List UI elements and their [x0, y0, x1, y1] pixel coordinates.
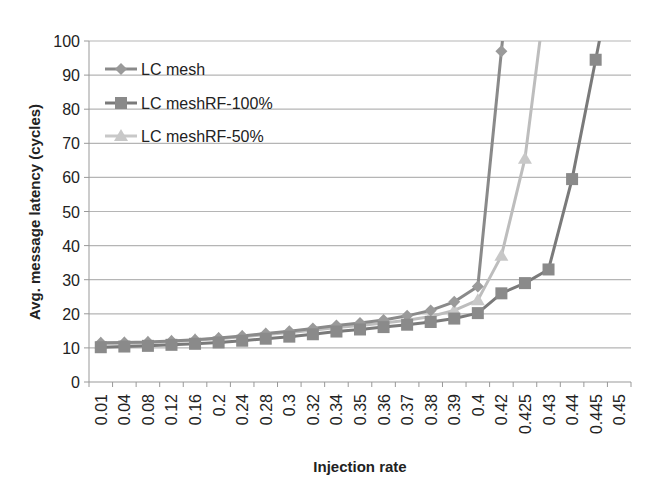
legend: LC mesh LC meshRF-100% LC meshRF-50%: [105, 61, 273, 145]
diamond-marker-icon: [115, 63, 127, 75]
y-tick-label: 20: [62, 306, 80, 323]
y-tick-label: 10: [62, 340, 80, 357]
triangle-marker: [494, 249, 508, 261]
legend-label: LC mesh: [141, 61, 205, 78]
x-tick-label: 0.08: [140, 394, 157, 425]
x-tick-label: 0.34: [328, 394, 345, 425]
x-tick-label: 0.425: [517, 394, 534, 434]
x-tick-label: 0.38: [423, 394, 440, 425]
square-marker: [283, 331, 295, 343]
square-marker: [142, 340, 154, 352]
square-marker: [165, 339, 177, 351]
x-tick-label: 0.35: [352, 394, 369, 425]
square-marker: [260, 333, 272, 345]
y-tick-label: 100: [53, 33, 80, 50]
legend-label: LC meshRF-50%: [141, 128, 264, 145]
square-marker: [236, 335, 248, 347]
x-tick-label: 0.12: [163, 394, 180, 425]
x-tick-label: 0.16: [187, 394, 204, 425]
square-marker: [378, 321, 390, 333]
square-marker: [425, 316, 437, 328]
x-tick-label: 0.44: [564, 394, 581, 425]
square-marker: [213, 336, 225, 348]
x-axis-ticks: 0.010.040.080.120.160.20.240.280.30.320.…: [89, 382, 631, 434]
square-marker: [95, 341, 107, 353]
square-marker: [543, 263, 555, 275]
y-tick-label: 80: [62, 101, 80, 118]
y-tick-label: 70: [62, 135, 80, 152]
y-tick-label: 30: [62, 272, 80, 289]
y-tick-label: 0: [71, 374, 80, 391]
x-tick-label: 0.24: [234, 394, 251, 425]
square-marker: [590, 54, 602, 66]
legend-item-lc-meshrf-50: LC meshRF-50%: [105, 128, 264, 145]
x-tick-label: 0.32: [305, 394, 322, 425]
line-chart: 0102030405060708090100 0.010.040.080.120…: [0, 0, 655, 493]
square-marker: [307, 328, 319, 340]
square-marker: [519, 277, 531, 289]
x-tick-label: 0.39: [446, 394, 463, 425]
x-tick-label: 0.445: [588, 394, 605, 434]
square-marker: [330, 326, 342, 338]
legend-label: LC meshRF-100%: [141, 95, 273, 112]
square-marker: [354, 323, 366, 335]
x-tick-label: 0.3: [281, 394, 298, 416]
x-tick-label: 0.42: [493, 394, 510, 425]
x-tick-label: 0.37: [399, 394, 416, 425]
x-tick-label: 0.4: [470, 394, 487, 416]
square-marker: [448, 313, 460, 325]
square-marker: [566, 173, 578, 185]
x-tick-label: 0.43: [541, 394, 558, 425]
series-lc-mesh: [95, 0, 509, 349]
series-lc-meshrf-100-: [95, 0, 613, 353]
square-marker-icon: [115, 97, 127, 109]
diamond-marker: [495, 45, 507, 57]
x-tick-label: 0.45: [611, 394, 628, 425]
x-tick-label: 0.01: [93, 394, 110, 425]
x-tick-label: 0.2: [211, 394, 228, 416]
y-tick-label: 40: [62, 238, 80, 255]
y-tick-label: 60: [62, 169, 80, 186]
x-tick-label: 0.28: [258, 394, 275, 425]
y-axis-title: Avg. message latency (cycles): [26, 104, 43, 320]
y-tick-label: 50: [62, 204, 80, 221]
x-axis-title: Injection rate: [313, 458, 406, 475]
triangle-marker: [471, 293, 485, 305]
square-marker: [189, 338, 201, 350]
square-marker: [495, 287, 507, 299]
y-tick-label: 90: [62, 67, 80, 84]
square-marker: [401, 319, 413, 331]
x-tick-label: 0.04: [116, 394, 133, 425]
gridlines: [89, 41, 631, 348]
y-axis-ticks: 0102030405060708090100: [53, 33, 89, 391]
square-marker: [472, 307, 484, 319]
x-tick-label: 0.36: [376, 394, 393, 425]
series-lc-meshrf-50-: [94, 0, 549, 348]
data-series: [94, 0, 613, 353]
square-marker: [118, 341, 130, 353]
triangle-marker: [518, 152, 532, 164]
